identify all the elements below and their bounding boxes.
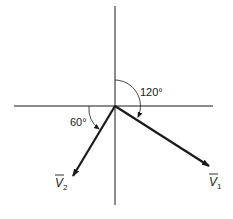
v2-subscript: 2	[63, 183, 68, 192]
vector-diagram: 120° 60° V1 V2	[0, 0, 233, 219]
vector-label-v2: V2	[55, 175, 68, 192]
vector-label-v1: V1	[209, 174, 222, 191]
v1-subscript: 1	[217, 182, 222, 191]
svg-text:V2: V2	[55, 176, 68, 192]
angle-arc-60	[89, 106, 99, 129]
angle-label-120: 120°	[140, 86, 163, 98]
vector-v1	[115, 106, 209, 166]
angle-arc-120	[115, 80, 140, 117]
angle-label-60: 60°	[70, 116, 87, 128]
svg-text:V1: V1	[209, 175, 222, 191]
